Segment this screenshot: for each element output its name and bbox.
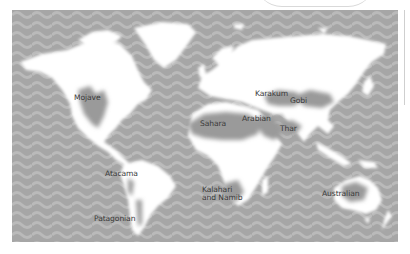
label-atacama: Atacama bbox=[105, 170, 138, 178]
decorative-arc bbox=[255, 0, 375, 7]
label-arabian: Arabian bbox=[242, 115, 271, 123]
label-patagonian: Patagonian bbox=[94, 215, 135, 223]
label-gobi: Gobi bbox=[290, 97, 307, 105]
label-thar: Thar bbox=[280, 125, 297, 133]
page-edge-rule bbox=[404, 10, 405, 105]
label-mojave: Mojave bbox=[74, 94, 101, 102]
label-karakum: Karakum bbox=[255, 90, 288, 98]
label-kalahari: Kalahari and Namib bbox=[202, 186, 242, 202]
label-kalahari-line2: and Namib bbox=[202, 194, 242, 202]
label-sahara: Sahara bbox=[200, 120, 226, 128]
label-australian: Australian bbox=[322, 190, 359, 198]
world-desert-map: Mojave Sahara Arabian Karakum Gobi Thar … bbox=[12, 10, 398, 242]
